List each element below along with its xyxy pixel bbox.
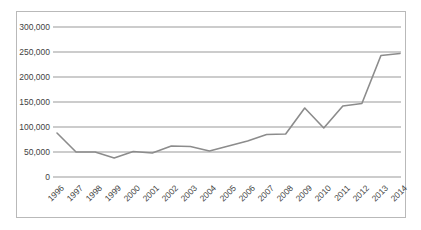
y-axis-tick-label: 200,000 xyxy=(4,72,50,82)
y-axis-tick-label: 150,000 xyxy=(4,97,50,107)
y-axis-tick-label: 50,000 xyxy=(4,147,50,157)
series-line-group xyxy=(57,54,400,159)
y-axis-tick-label: 0 xyxy=(4,172,50,182)
chart-container: 050,000100,000150,000200,000250,000300,0… xyxy=(0,0,421,230)
y-axis-tick-label: 250,000 xyxy=(4,47,50,57)
y-axis-tick-label: 100,000 xyxy=(4,122,50,132)
y-axis-tick-label: 300,000 xyxy=(4,22,50,32)
series-line-path xyxy=(57,54,400,159)
